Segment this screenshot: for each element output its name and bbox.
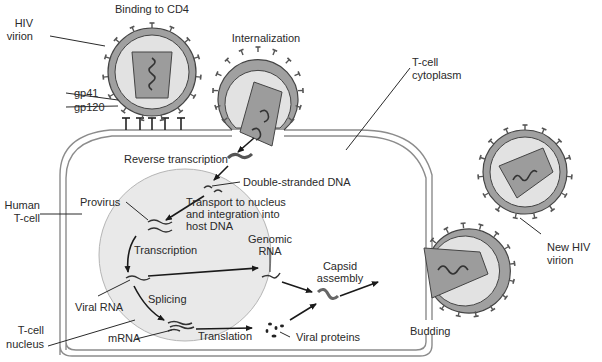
label-provirus: Provirus — [80, 196, 121, 208]
label-double-stranded-dna: Double-stranded DNA — [243, 176, 351, 188]
label-gp41: gp41 — [74, 87, 98, 99]
label-tcell-cytoplasm: T-cellcytoplasm — [412, 56, 462, 81]
label-binding-to-cd4: Binding to CD4 — [115, 3, 189, 15]
label-mrna: mRNA — [108, 332, 141, 344]
cd4-receptors — [122, 118, 185, 130]
label-viral-proteins: Viral proteins — [296, 331, 360, 343]
hiv-virion-budding — [424, 223, 515, 317]
label-new-hiv-virion: New HIVvirion — [547, 241, 591, 266]
label-reverse-transcription: Reverse transcription — [124, 153, 228, 165]
label-tcell-nucleus: T-cellnucleus — [6, 324, 44, 350]
new-hiv-virion — [478, 125, 572, 218]
hiv-virion-internalizing — [213, 47, 303, 146]
label-viral-rna: Viral RNA — [75, 301, 124, 313]
label-human-tcell: HumanT-cell — [5, 199, 40, 224]
label-capsid-assembly: Capsidassembly — [317, 260, 364, 284]
label-budding: Budding — [410, 325, 450, 337]
label-translation: Translation — [198, 330, 252, 342]
label-hiv-virion: HIVvirion — [7, 17, 34, 42]
label-splicing: Splicing — [148, 293, 187, 305]
viral-protein-dots — [266, 323, 284, 338]
label-internalization: Internalization — [232, 32, 301, 44]
label-gp120: gp120 — [74, 101, 105, 113]
label-transcription: Transcription — [134, 244, 197, 256]
hiv-life-cycle-diagram: HIVvirion Binding to CD4 gp41 gp120 Inte… — [0, 0, 602, 362]
